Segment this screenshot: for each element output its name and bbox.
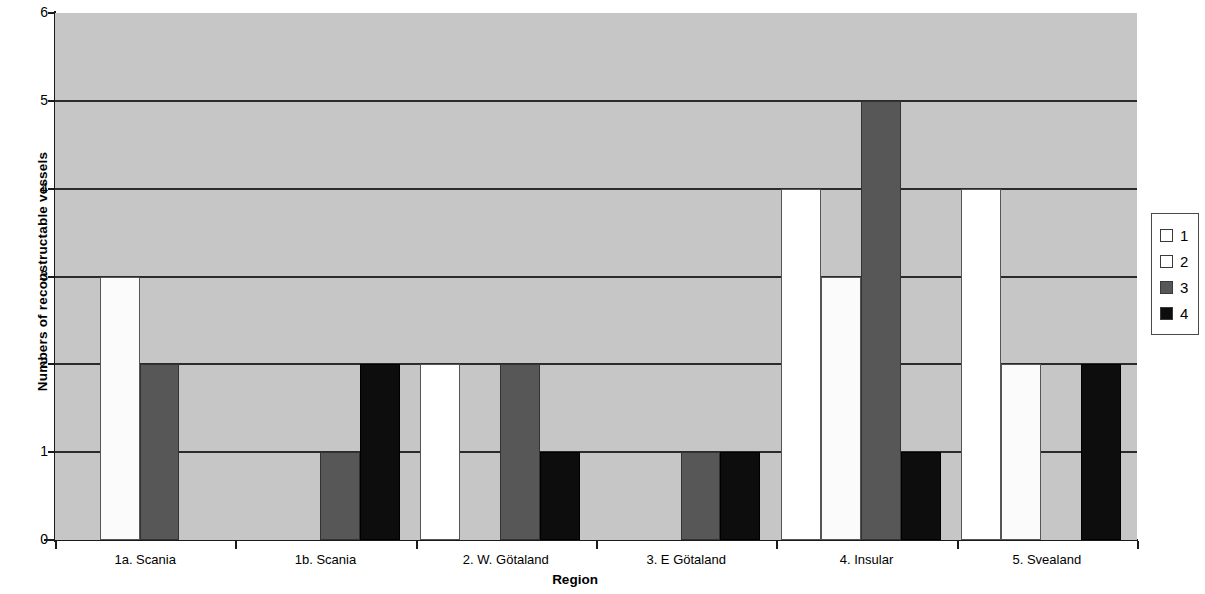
y-tick-label: 3 [26, 269, 48, 283]
bar-1-group-3 [420, 364, 460, 540]
x-tick-mark [1137, 541, 1139, 549]
y-tick-label: 5 [26, 93, 48, 107]
bar-4-group-4 [720, 452, 760, 540]
y-tick-mark [48, 451, 55, 453]
legend-label: 3 [1180, 280, 1188, 295]
y-tick-mark [48, 539, 55, 541]
legend-label: 2 [1180, 254, 1188, 269]
y-tick-label: 1 [26, 444, 48, 458]
legend-swatch-icon [1160, 229, 1173, 242]
x-tick-mark [596, 541, 598, 549]
y-tick-mark [48, 100, 55, 102]
x-tick-label: 4. Insular [776, 552, 956, 567]
legend-item-2[interactable]: 2 [1160, 248, 1192, 274]
y-tick-label: 6 [26, 5, 48, 19]
legend-label: 1 [1180, 228, 1188, 243]
bar-3-group-1 [140, 364, 180, 540]
bar-4-group-6 [1081, 364, 1121, 540]
bar-3-group-2 [320, 452, 360, 540]
x-tick-label: 1a. Scania [55, 552, 235, 567]
x-tick-mark [776, 541, 778, 549]
y-axis-tick-labels: 0123456 [22, 0, 48, 594]
bar-chart: Numbers of reconstructable vessels 01234… [0, 0, 1205, 594]
bar-1-group-5 [781, 189, 821, 540]
bar-4-group-3 [540, 452, 580, 540]
x-tick-mark [416, 541, 418, 549]
y-tick-mark [48, 188, 55, 190]
legend-item-1[interactable]: 1 [1160, 222, 1192, 248]
y-tick-label: 4 [26, 181, 48, 195]
bar-2-group-5 [821, 277, 861, 541]
y-tick-label: 2 [26, 356, 48, 370]
x-axis-title: Region [0, 572, 1150, 587]
gridline [55, 100, 1137, 102]
legend-swatch-icon [1160, 307, 1173, 320]
x-tick-label: 1b. Scania [235, 552, 415, 567]
legend-item-3[interactable]: 3 [1160, 274, 1192, 300]
bar-3-group-4 [681, 452, 721, 540]
y-tick-mark [48, 276, 55, 278]
bar-2-group-6 [1001, 364, 1041, 540]
legend-swatch-icon [1160, 281, 1173, 294]
bar-4-group-5 [901, 452, 941, 540]
x-tick-label: 2. W. Götaland [416, 552, 596, 567]
bar-4-group-2 [360, 364, 400, 540]
legend-item-4[interactable]: 4 [1160, 300, 1192, 326]
bar-3-group-5 [861, 101, 901, 540]
legend: 1234 [1151, 213, 1199, 335]
legend-swatch-icon [1160, 255, 1173, 268]
plot-area [55, 13, 1137, 540]
y-tick-mark [48, 363, 55, 365]
bar-2-group-1 [100, 277, 140, 541]
x-tick-mark [235, 541, 237, 549]
legend-label: 4 [1180, 306, 1188, 321]
bar-3-group-3 [500, 364, 540, 540]
x-tick-mark [957, 541, 959, 549]
y-tick-mark [48, 12, 55, 14]
x-tick-label: 5. Svealand [957, 552, 1137, 567]
x-tick-mark [55, 541, 57, 549]
x-tick-label: 3. E Götaland [596, 552, 776, 567]
bar-1-group-6 [961, 189, 1001, 540]
